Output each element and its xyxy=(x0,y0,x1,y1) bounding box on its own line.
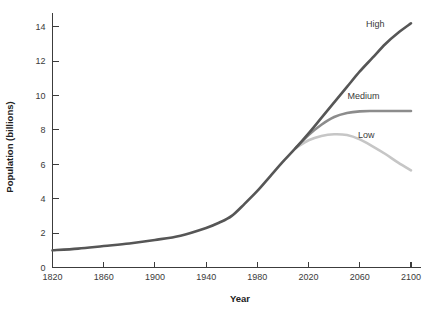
chart-canvas: 02468101214 1820186019001940198020202060… xyxy=(0,0,434,314)
x-tick-label: 1980 xyxy=(247,272,267,282)
x-tick-label: 2060 xyxy=(350,272,370,282)
x-tick-label: 1900 xyxy=(145,272,165,282)
x-axis-title: Year xyxy=(230,293,250,304)
series-line-low xyxy=(296,134,411,170)
x-axis-ticks: 18201860190019401980202020602100 xyxy=(42,262,421,282)
y-tick-label: 8 xyxy=(40,125,45,135)
y-axis-ticks: 02468101214 xyxy=(35,22,58,273)
y-tick-label: 2 xyxy=(40,228,45,238)
x-tick-label: 1820 xyxy=(42,272,62,282)
x-tick-label: 1860 xyxy=(94,272,114,282)
y-tick-label: 4 xyxy=(40,194,45,204)
population-projection-chart: 02468101214 1820186019001940198020202060… xyxy=(0,0,434,314)
y-tick-label: 14 xyxy=(35,22,45,32)
y-tick-label: 6 xyxy=(40,160,45,170)
x-tick-label: 2020 xyxy=(299,272,319,282)
x-tick-label: 2100 xyxy=(401,272,421,282)
y-tick-label: 12 xyxy=(35,56,45,66)
series-label-medium: Medium xyxy=(348,91,380,101)
y-tick-label: 10 xyxy=(35,91,45,101)
y-axis-title: Population (billions) xyxy=(4,101,15,192)
series-label-high: High xyxy=(366,19,385,29)
x-tick-label: 1940 xyxy=(196,272,216,282)
series-label-low: Low xyxy=(358,130,375,140)
